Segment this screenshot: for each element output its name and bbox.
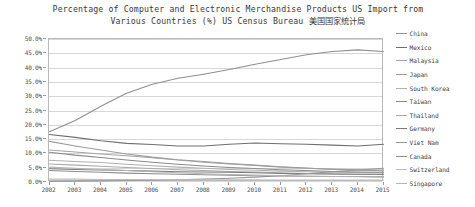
chart-title: Percentage of Computer and Electronic Me… bbox=[42, 4, 434, 27]
legend-item[interactable]: China bbox=[396, 27, 474, 41]
x-axis-tick-label: 2005 bbox=[119, 186, 133, 193]
legend-item-label: Mexico bbox=[410, 44, 432, 51]
legend-color-swatch bbox=[396, 74, 407, 75]
legend-item[interactable]: Switzerland bbox=[396, 163, 474, 177]
y-axis-tick-mark bbox=[43, 38, 46, 39]
y-axis-tick-mark bbox=[43, 67, 46, 68]
y-axis-tick-label: 40.0% bbox=[25, 63, 42, 70]
x-axis-tick-mark bbox=[151, 182, 152, 185]
legend-item-label: Taiwan bbox=[410, 98, 432, 105]
x-axis-tick-label: 2012 bbox=[298, 186, 312, 193]
x-axis-tick-mark bbox=[100, 182, 101, 185]
x-axis-tick-mark bbox=[280, 182, 281, 185]
legend-color-swatch bbox=[396, 142, 407, 143]
series-line bbox=[50, 50, 384, 132]
x-axis-tick-mark bbox=[74, 182, 75, 185]
x-axis-tick-label: 2006 bbox=[144, 186, 158, 193]
x-axis-tick-mark bbox=[126, 182, 127, 185]
legend-color-swatch bbox=[396, 33, 407, 34]
y-axis-tick-label: 45.0% bbox=[25, 49, 42, 56]
x-axis-tick-label: 2008 bbox=[196, 186, 210, 193]
chart-container: Percentage of Computer and Electronic Me… bbox=[0, 0, 475, 207]
legend-color-swatch bbox=[396, 128, 407, 129]
y-axis-tick-mark bbox=[43, 181, 46, 182]
legend-item[interactable]: Thailand bbox=[396, 109, 474, 123]
legend-color-swatch bbox=[396, 101, 407, 102]
y-axis-tick-mark bbox=[43, 81, 46, 82]
x-axis-tick-label: 2010 bbox=[247, 186, 261, 193]
y-axis-tick-mark bbox=[43, 152, 46, 153]
legend-item-label: Thailand bbox=[410, 112, 439, 119]
x-axis-tick-mark bbox=[331, 182, 332, 185]
x-axis-tick-mark bbox=[383, 182, 384, 185]
x-axis-tick-mark bbox=[228, 182, 229, 185]
x-axis-tick-label: 2009 bbox=[221, 186, 235, 193]
legend-item[interactable]: Singapore bbox=[396, 177, 474, 191]
y-axis-tick-label: 35.0% bbox=[25, 77, 42, 84]
y-axis-tick-label: 30.0% bbox=[25, 92, 42, 99]
plot-area bbox=[48, 38, 383, 181]
y-axis-tick-mark bbox=[43, 52, 46, 53]
x-axis-tick-mark bbox=[177, 182, 178, 185]
y-axis: 50.0%45.0%40.0%35.0%30.0%25.0%20.0%15.0%… bbox=[0, 30, 46, 190]
x-axis-tick-mark bbox=[357, 182, 358, 185]
legend-item[interactable]: Mexico bbox=[396, 41, 474, 55]
x-axis-tick-label: 2014 bbox=[350, 186, 364, 193]
chart-legend: ChinaMexicoMalaysiaJapanSouth KoreaTaiwa… bbox=[396, 27, 474, 190]
series-line bbox=[50, 135, 384, 146]
legend-item[interactable]: Taiwan bbox=[396, 95, 474, 109]
legend-item-label: Viet Nam bbox=[410, 139, 439, 146]
legend-item[interactable]: Malaysia bbox=[396, 54, 474, 68]
x-axis-tick-label: 2003 bbox=[67, 186, 81, 193]
legend-item-label: South Korea bbox=[410, 85, 450, 92]
legend-color-swatch bbox=[396, 183, 407, 184]
x-axis-tick-label: 2004 bbox=[93, 186, 107, 193]
x-axis-tick-mark bbox=[49, 182, 50, 185]
series-line bbox=[50, 179, 384, 180]
y-axis-tick-label: 15.0% bbox=[25, 135, 42, 142]
legend-item[interactable]: Japan bbox=[396, 68, 474, 82]
x-axis-tick-mark bbox=[203, 182, 204, 185]
legend-color-swatch bbox=[396, 115, 407, 116]
y-axis-tick-label: 0.0% bbox=[28, 178, 42, 185]
y-axis-tick-mark bbox=[43, 110, 46, 111]
y-axis-tick-mark bbox=[43, 95, 46, 96]
x-axis-tick-label: 2007 bbox=[170, 186, 184, 193]
y-axis-tick-label: 50.0% bbox=[25, 35, 42, 42]
legend-color-swatch bbox=[396, 156, 407, 157]
legend-color-swatch bbox=[396, 169, 407, 170]
x-axis-tick-mark bbox=[305, 182, 306, 185]
legend-item-label: Singapore bbox=[410, 180, 443, 187]
y-axis-tick-label: 5.0% bbox=[28, 163, 42, 170]
legend-item[interactable]: Viet Nam bbox=[396, 136, 474, 150]
legend-item[interactable]: Canada bbox=[396, 149, 474, 163]
chart-title-line-1: Percentage of Computer and Electronic Me… bbox=[42, 4, 434, 16]
y-axis-tick-label: 25.0% bbox=[25, 106, 42, 113]
legend-item-label: Canada bbox=[410, 153, 432, 160]
y-axis-tick-mark bbox=[43, 124, 46, 125]
legend-color-swatch bbox=[396, 60, 407, 61]
legend-color-swatch bbox=[396, 88, 407, 89]
legend-item-label: Switzerland bbox=[410, 166, 450, 173]
legend-item[interactable]: Germany bbox=[396, 122, 474, 136]
series-lines bbox=[49, 39, 384, 182]
x-axis-tick-label: 2011 bbox=[273, 186, 287, 193]
legend-item[interactable]: South Korea bbox=[396, 81, 474, 95]
x-axis-tick-mark bbox=[254, 182, 255, 185]
legend-item-label: Japan bbox=[410, 71, 428, 78]
chart-title-line-2: Various Countries (%) US Census Bureau 美… bbox=[42, 16, 434, 28]
legend-item-label: China bbox=[410, 30, 428, 37]
legend-item-label: Malaysia bbox=[410, 57, 439, 64]
legend-item-label: Germany bbox=[410, 125, 435, 132]
x-axis-tick-label: 2015 bbox=[376, 186, 390, 193]
y-axis-tick-label: 10.0% bbox=[25, 149, 42, 156]
x-axis-tick-label: 2013 bbox=[324, 186, 338, 193]
x-axis-tick-label: 2002 bbox=[42, 186, 56, 193]
y-axis-tick-mark bbox=[43, 167, 46, 168]
y-axis-tick-label: 20.0% bbox=[25, 120, 42, 127]
x-axis: 2002200320042005200620072008200920102011… bbox=[48, 183, 383, 203]
y-axis-tick-mark bbox=[43, 138, 46, 139]
legend-color-swatch bbox=[396, 47, 407, 48]
